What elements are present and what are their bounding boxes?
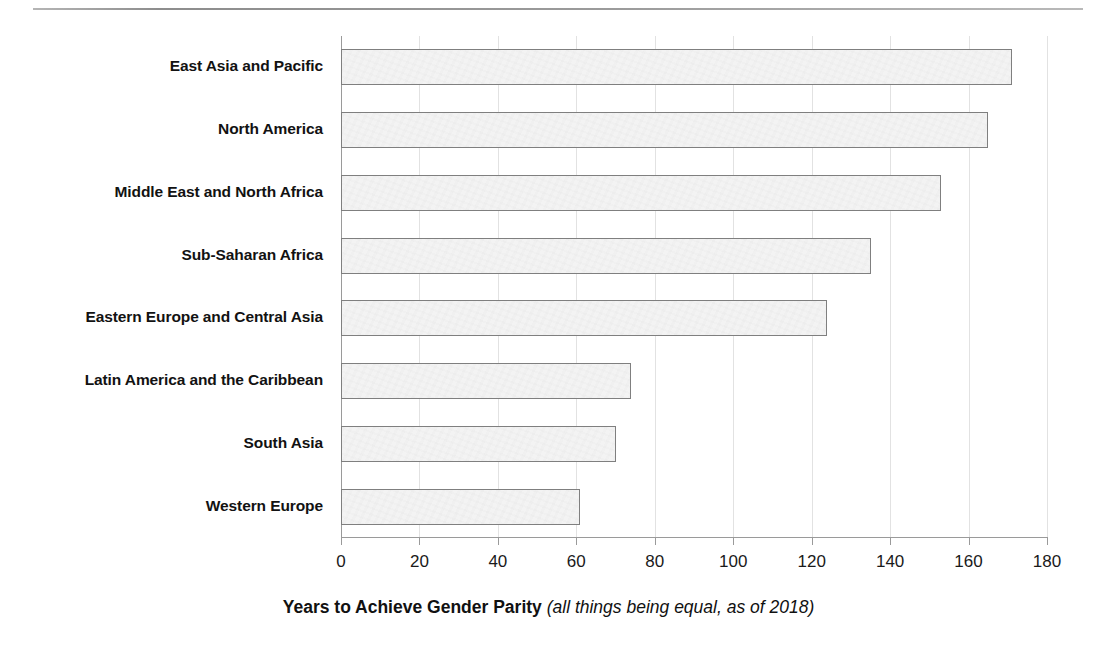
- x-axis-tick-label-40: 40: [468, 552, 528, 572]
- x-axis-tick-100: [733, 538, 734, 545]
- x-axis-tick-180: [1047, 538, 1048, 545]
- category-label: North America: [3, 120, 323, 138]
- x-axis-tick-80: [655, 538, 656, 545]
- x-axis-tick-label-20: 20: [389, 552, 449, 572]
- bar[interactable]: [341, 49, 1012, 85]
- x-axis-tick-60: [576, 538, 577, 545]
- bar[interactable]: [341, 363, 631, 399]
- chart-figure: East Asia and PacificNorth AmericaMiddle…: [0, 0, 1097, 654]
- x-axis-tick-label-140: 140: [860, 552, 920, 572]
- bar[interactable]: [341, 426, 616, 462]
- category-label: Middle East and North Africa: [3, 183, 323, 201]
- bar[interactable]: [341, 112, 988, 148]
- category-label: Latin America and the Caribbean: [3, 371, 323, 389]
- plot-area: [341, 36, 1047, 538]
- x-axis-tick-label-60: 60: [546, 552, 606, 572]
- x-axis-title-note: (all things being equal, as of 2018): [547, 597, 815, 617]
- category-axis-labels: East Asia and PacificNorth AmericaMiddle…: [0, 0, 331, 654]
- x-axis-tick-label-160: 160: [939, 552, 999, 572]
- x-axis-tick-0: [341, 538, 342, 545]
- bar-row[interactable]: [341, 175, 941, 211]
- bar-row[interactable]: [341, 426, 616, 462]
- category-label: Sub-Saharan Africa: [3, 246, 323, 264]
- x-axis-tick-label-100: 100: [703, 552, 763, 572]
- bar[interactable]: [341, 238, 871, 274]
- x-axis-tick-140: [890, 538, 891, 545]
- x-axis-tick-label-180: 180: [1017, 552, 1077, 572]
- x-axis-tick-20: [419, 538, 420, 545]
- category-label: Western Europe: [3, 497, 323, 515]
- gridline-180: [1047, 36, 1048, 538]
- bar-row[interactable]: [341, 300, 827, 336]
- x-axis-tick-160: [969, 538, 970, 545]
- x-axis-tick-label-0: 0: [311, 552, 371, 572]
- bar-row[interactable]: [341, 238, 871, 274]
- x-axis-tick-label-120: 120: [782, 552, 842, 572]
- x-axis-tick-40: [498, 538, 499, 545]
- x-axis-title: Years to Achieve Gender Parity (all thin…: [0, 597, 1097, 618]
- bar[interactable]: [341, 300, 827, 336]
- x-axis-tick-120: [812, 538, 813, 545]
- category-label: Eastern Europe and Central Asia: [3, 308, 323, 326]
- bar[interactable]: [341, 175, 941, 211]
- category-label: South Asia: [3, 434, 323, 452]
- bar-row[interactable]: [341, 112, 988, 148]
- bar-row[interactable]: [341, 49, 1012, 85]
- category-label: East Asia and Pacific: [3, 57, 323, 75]
- x-axis-title-main: Years to Achieve Gender Parity: [283, 597, 542, 617]
- bar[interactable]: [341, 489, 580, 525]
- x-axis-tick-label-80: 80: [625, 552, 685, 572]
- bar-row[interactable]: [341, 489, 580, 525]
- x-axis-line: [341, 537, 1048, 538]
- bar-row[interactable]: [341, 363, 631, 399]
